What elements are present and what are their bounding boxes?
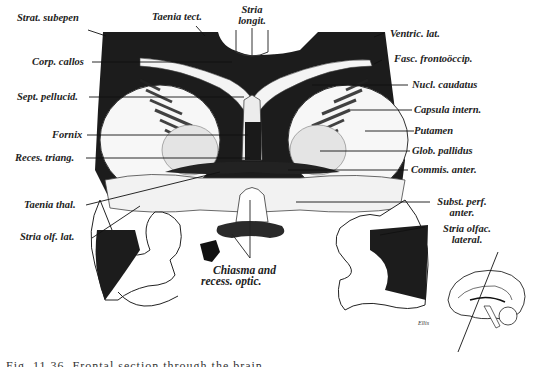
label-strat-subepen: Strat. subepen [17,12,79,23]
figure: Ellis Strat. subepen Corp. callos Sept. … [0,0,536,367]
artist-signature: Ellis [417,320,430,326]
label-glob-pallidus: Glob. pallidus [412,145,473,156]
label-reces-triang: Reces. triang. [15,152,74,163]
label-fasc-frontooccip: Fasc. frontoöccip. [394,53,472,64]
label-fornix: Fornix [52,129,82,140]
label-nucl-caudatus: Nucl. caudatus [412,79,477,90]
inset-sagittal-brain [448,252,525,352]
label-capsula-intern: Capsula intern. [414,104,481,115]
label-stria-longit: Stria longit. [232,4,272,26]
label-chiasma: Chiasma and recess. optic. [201,265,276,287]
figure-caption: Fig. 11.36. Frontal section through the … [6,358,536,367]
label-taenia-tect: Taenia tect. [152,11,202,22]
label-stria-olfac-lateral: Stria olfac. lateral. [430,223,504,245]
label-commis-anter: Commis. anter. [411,164,477,175]
label-taenia-thal: Taenia thal. [24,199,76,210]
label-sept-pellucid: Sept. pellucid. [17,91,78,102]
label-ventric-lat: Ventric. lat. [390,28,440,39]
label-putamen: Putamen [414,125,453,136]
label-stria-olf-lat: Stria olf. lat. [20,231,74,242]
label-subst-perf-anter: Subst. perf. anter. [427,196,497,218]
label-corp-callos: Corp. callos [32,56,84,67]
